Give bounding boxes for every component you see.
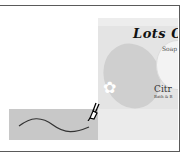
product-brand: Citr bbox=[154, 84, 172, 94]
label-wave-top bbox=[98, 18, 178, 26]
flower-icon: ✿ bbox=[103, 80, 116, 96]
product-subtitle: Soap bbox=[162, 45, 177, 52]
product-brand-sub: Bath & B bbox=[154, 94, 173, 99]
product-image[interactable]: Lots O' Soap ✿ Citr Bath & B bbox=[98, 18, 178, 109]
image-lower-area bbox=[98, 109, 178, 140]
pen-brush-icon bbox=[84, 101, 102, 121]
product-title: Lots O' bbox=[133, 26, 178, 41]
